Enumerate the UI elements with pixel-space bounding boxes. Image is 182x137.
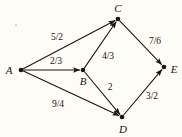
edge-a-d bbox=[23, 71, 119, 115]
node-a bbox=[19, 68, 24, 73]
edge-c-e bbox=[120, 21, 162, 65]
edge-layer bbox=[23, 21, 162, 116]
graph-canvas bbox=[0, 0, 182, 137]
graph-figure: ABCDE5/22/39/44/327/63/2 bbox=[0, 0, 182, 137]
node-b bbox=[81, 68, 86, 73]
node-c bbox=[116, 17, 121, 22]
edge-d-e bbox=[124, 70, 162, 115]
edge-a-c bbox=[23, 21, 115, 69]
node-d bbox=[120, 115, 125, 120]
scan-speck bbox=[15, 24, 17, 26]
node-e bbox=[162, 65, 167, 70]
